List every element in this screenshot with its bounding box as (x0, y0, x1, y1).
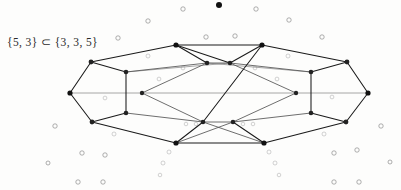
background-open-circle (53, 124, 57, 128)
graph-edge (70, 62, 91, 93)
background-open-circle (167, 150, 171, 154)
graph-vertex (201, 120, 206, 125)
background-open-circle (286, 54, 290, 58)
graph-edge (176, 122, 203, 143)
graph-vertex (231, 120, 236, 125)
graph-edge (233, 113, 311, 122)
graph-vertex (309, 111, 314, 116)
graph-edge (346, 93, 368, 122)
graph-edge (233, 122, 264, 143)
graph-edge (311, 113, 346, 122)
graph-vertex (90, 120, 95, 125)
graph-vertex (309, 70, 314, 75)
graph-vertex (173, 140, 178, 145)
background-open-circle (146, 54, 150, 58)
background-open-circle (379, 124, 383, 128)
graph-edge (92, 122, 176, 143)
background-open-circle (76, 180, 80, 184)
graph-edge (203, 122, 264, 143)
graph-vertex (365, 90, 370, 95)
background-open-circle (46, 161, 50, 165)
background-open-circle (194, 122, 198, 126)
background-open-circle (332, 180, 336, 184)
background-open-circle (116, 36, 120, 40)
background-open-circle (101, 180, 105, 184)
background-open-circle (330, 95, 334, 99)
set-inclusion-caption: {5, 3} ⊂ {3, 3, 5} (7, 35, 98, 49)
background-open-circle (161, 161, 165, 165)
background-open-circle (322, 132, 326, 136)
background-open-circle (233, 34, 237, 38)
graph-vertex (228, 61, 233, 66)
graph-edges-layer (70, 45, 368, 143)
background-open-circle (275, 77, 279, 81)
background-open-circle (273, 161, 277, 165)
background-open-circle (277, 173, 281, 177)
background-open-circle (357, 180, 361, 184)
background-open-circle (80, 151, 84, 155)
background-open-circle (332, 151, 336, 155)
polytope-projection-diagram (0, 0, 401, 190)
graph-edge (311, 62, 347, 72)
background-open-circle (103, 153, 107, 157)
background-open-circle (112, 132, 116, 136)
graph-edge (142, 93, 203, 122)
graph-vertex (124, 70, 129, 75)
background-solid-dot (216, 2, 222, 8)
graph-edge (230, 45, 262, 63)
graph-edge (70, 93, 92, 122)
background-open-circle (146, 19, 150, 23)
graph-vertex (124, 111, 129, 116)
background-open-circle (103, 96, 107, 100)
background-open-circle (158, 173, 162, 177)
background-open-circle (254, 7, 258, 11)
graph-edge (126, 63, 207, 72)
graph-vertex (345, 60, 350, 65)
graph-vertex (259, 42, 264, 47)
background-open-circle (204, 35, 208, 39)
graph-edge (91, 62, 126, 72)
background-open-circle (320, 35, 324, 39)
graph-vertex (140, 91, 144, 95)
background-open-circle (241, 122, 245, 126)
graph-vertex (344, 120, 349, 125)
graph-vertex (89, 60, 94, 65)
background-open-circle (388, 160, 392, 164)
graph-edge (91, 45, 176, 62)
background-open-circle (251, 122, 255, 126)
graph-vertex (261, 140, 266, 145)
background-open-circle (181, 7, 185, 11)
background-open-circle (267, 150, 271, 154)
graph-edge (233, 93, 296, 122)
graph-vertex (294, 91, 298, 95)
graph-vertex (67, 90, 72, 95)
background-open-circle (287, 18, 291, 22)
background-open-circle (157, 77, 161, 81)
graph-vertex (173, 42, 178, 47)
graph-edge (126, 113, 203, 122)
graph-edge (262, 45, 347, 62)
graph-edge (347, 62, 368, 93)
graph-vertex (205, 61, 210, 66)
graph-edge (264, 122, 346, 143)
figure-canvas: {5, 3} ⊂ {3, 3, 5} (0, 0, 401, 190)
graph-edge (92, 113, 126, 122)
background-open-circle (184, 122, 188, 126)
background-open-circle (355, 148, 359, 152)
